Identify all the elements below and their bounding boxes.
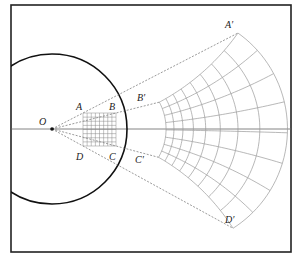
center-point-O	[50, 127, 54, 131]
label-D-prime: D′	[224, 214, 235, 225]
label-O: O	[39, 116, 46, 127]
label-C: C	[109, 151, 116, 162]
label-A: A	[75, 101, 83, 112]
label-D: D	[75, 151, 84, 162]
image-grid	[159, 33, 288, 228]
label-C-prime: C′	[135, 154, 145, 165]
source-square-grid	[83, 113, 116, 146]
label-A-prime: A′	[224, 19, 234, 30]
dashed-ray	[52, 33, 238, 129]
image-grid-arc	[166, 102, 285, 123]
image-grid-arc	[209, 64, 238, 197]
image-grid-arc	[159, 102, 167, 157]
image-grid-arc	[162, 50, 257, 108]
dashed-ray	[52, 102, 159, 129]
label-B: B	[109, 101, 115, 112]
image-grid-arc	[166, 130, 287, 133]
label-B-prime: B′	[137, 92, 146, 103]
inversion-diagram: O A B C D A′ B′ C′ D′	[0, 0, 302, 264]
image-grid-arc	[233, 33, 287, 228]
